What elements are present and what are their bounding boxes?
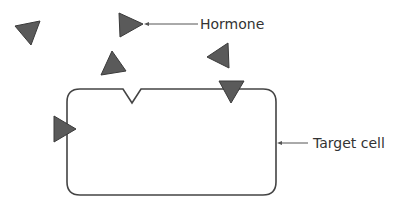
hormone-molecule [101,51,126,75]
target-cell [67,89,276,195]
target-cell-arrowhead [277,141,282,145]
hormone-arrowhead [144,22,149,26]
hormone-molecule [119,13,143,37]
hormone-target-cell-diagram: Hormone Target cell [0,0,395,205]
hormone-molecule [207,43,229,68]
hormone-label: Hormone [200,16,264,32]
hormone-molecule [15,21,40,45]
target-cell-label: Target cell [312,135,385,151]
